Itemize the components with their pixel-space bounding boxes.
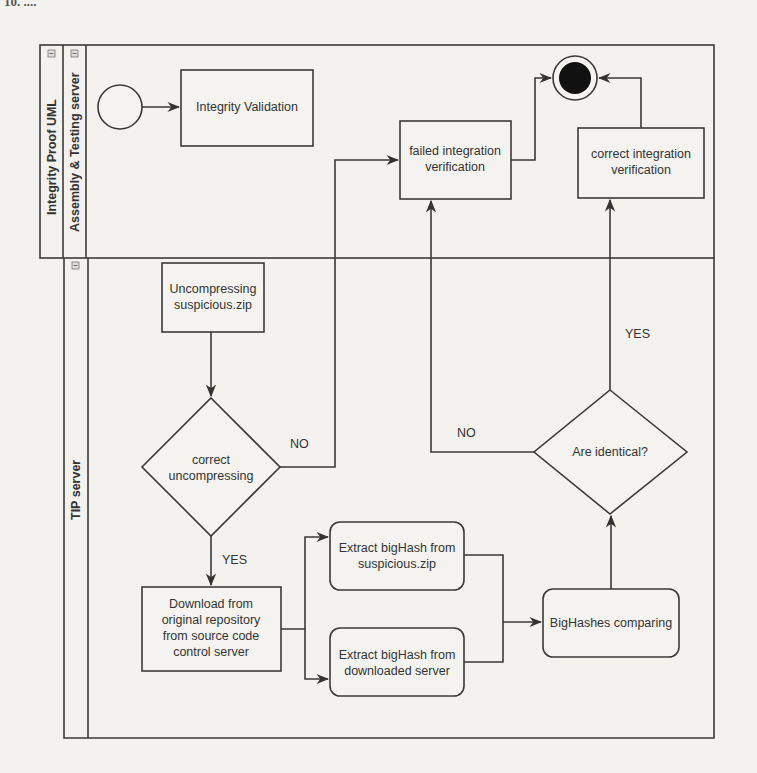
svg-text:correct: correct [192,453,231,467]
svg-text:from source code: from source code [163,629,260,643]
lane-label-tip: TIP server [69,460,83,520]
svg-text:control server: control server [173,645,249,659]
diagram-title: Integrity Proof UML [45,99,59,215]
edge-label-no: NO [457,426,476,440]
svg-text:verification: verification [611,163,671,177]
svg-text:Extract bigHash from: Extract bigHash from [339,648,456,662]
edge-label-yes: YES [222,553,247,567]
initial-node[interactable] [98,85,142,129]
svg-text:BigHashes comparing: BigHashes comparing [550,616,672,630]
action-extract-downloaded[interactable]: Extract bigHash from downloaded server [330,628,464,696]
action-extract-suspicious[interactable]: Extract bigHash from suspicious.zip [330,522,464,590]
svg-text:Are identical?: Are identical? [572,445,648,459]
collapse-icon[interactable] [71,50,78,57]
decision-correct-uncompressing[interactable]: correct uncompressing [142,398,280,536]
svg-text:uncompressing: uncompressing [169,469,254,483]
action-correct-verification[interactable]: correct integration verification [578,128,704,198]
svg-text:suspicious.zip: suspicious.zip [358,557,436,571]
decision-are-identical[interactable]: Are identical? [534,390,687,514]
lane-label-assembly: Assembly & Testing server [68,72,82,232]
svg-text:failed integration: failed integration [409,144,501,158]
svg-text:downloaded server: downloaded server [344,664,450,678]
svg-text:suspicious.zip: suspicious.zip [174,298,252,312]
action-uncompressing[interactable]: Uncompressing suspicious.zip [162,263,264,332]
action-bighashes-comparing[interactable]: BigHashes comparing [543,589,679,657]
collapse-icon[interactable] [48,50,55,57]
svg-text:Uncompressing: Uncompressing [170,282,257,296]
uml-activity-diagram: Integrity Proof UML Assembly & Testing s… [0,0,757,773]
edge-label-no: NO [290,437,309,451]
action-failed-verification[interactable]: failed integration verification [400,121,511,199]
collapse-icon[interactable] [72,262,79,269]
svg-text:verification: verification [425,160,485,174]
svg-text:Integrity Validation: Integrity Validation [196,100,298,114]
svg-text:correct integration: correct integration [591,147,691,161]
svg-text:Download from: Download from [169,597,253,611]
action-download[interactable]: Download from original repository from s… [142,587,281,671]
svg-text:Extract bigHash from: Extract bigHash from [339,541,456,555]
svg-text:original repository: original repository [162,613,261,627]
action-integrity-validation[interactable]: Integrity Validation [181,70,313,146]
edge-label-yes: YES [625,327,650,341]
final-node[interactable] [553,56,597,100]
